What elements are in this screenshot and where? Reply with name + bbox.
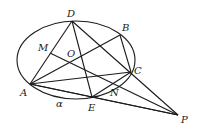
segment-BC	[120, 35, 131, 72]
geometry-diagram: D B M O C A N E α P	[0, 0, 203, 133]
label-A: A	[19, 87, 27, 98]
segment-MP	[50, 53, 178, 115]
label-B: B	[121, 22, 129, 33]
label-P: P	[180, 114, 188, 125]
label-E: E	[87, 102, 96, 113]
segment-DP	[72, 21, 178, 115]
segment-EP	[92, 97, 178, 115]
label-N: N	[109, 87, 120, 98]
label-O: O	[67, 48, 75, 59]
label-M: M	[37, 42, 49, 53]
label-D: D	[66, 8, 75, 19]
label-alpha: α	[56, 98, 63, 109]
label-C: C	[134, 65, 142, 76]
segment-AD	[30, 21, 72, 84]
